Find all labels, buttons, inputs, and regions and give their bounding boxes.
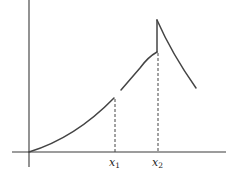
x1-label: x1 bbox=[109, 156, 120, 170]
increasing-convex-segment bbox=[29, 98, 114, 152]
decreasing-segment bbox=[157, 20, 196, 88]
function-graph: x1 x2 bbox=[0, 0, 235, 174]
x2-label: x2 bbox=[152, 156, 163, 170]
increasing-concave-segment bbox=[121, 52, 157, 90]
